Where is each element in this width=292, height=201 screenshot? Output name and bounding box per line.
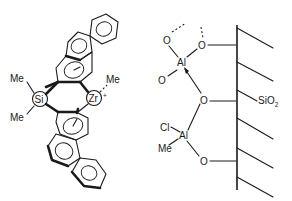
zr-atom: Zr + — [87, 91, 108, 106]
top-upper-ring — [90, 14, 118, 44]
chemical-diagram: Si Me Me Zr + Me — [0, 0, 292, 201]
surface-hatching — [237, 28, 273, 197]
silica-aluminum-structure: SiO2 O O Al O O Cl Al Me O — [158, 23, 279, 197]
o-middle-label: O — [200, 95, 208, 106]
o-al-top-label: O — [158, 75, 166, 86]
bottom-middle-ring — [48, 134, 80, 166]
top-middle-ring — [66, 32, 92, 60]
cl-label: Cl — [160, 122, 169, 133]
zr-charge: + — [103, 92, 107, 99]
o-top-left-label: O — [163, 35, 171, 46]
bottom-lower-ring — [72, 158, 106, 188]
surface-label: SiO2 — [258, 95, 279, 108]
zirconocene-structure: Si Me Me Zr + Me — [10, 14, 120, 188]
si-label: Si — [35, 94, 44, 105]
o-bottom-label: O — [200, 156, 208, 167]
zr-label: Zr — [89, 93, 99, 104]
o-top-right-label: O — [198, 40, 206, 51]
al-top-label: Al — [177, 57, 186, 68]
me-si-top-label: Me — [10, 73, 24, 84]
me-si-bottom-label: Me — [10, 112, 24, 123]
top-cp-ring — [46, 52, 92, 87]
me-zr-label: Me — [106, 74, 120, 85]
